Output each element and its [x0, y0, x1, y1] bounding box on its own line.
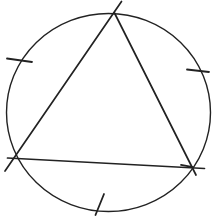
- geometry-figure: [0, 0, 218, 220]
- triangle-edge-bottom: [8, 158, 205, 169]
- circle-outline: [7, 14, 211, 212]
- tick-upper-right-arc: [187, 70, 209, 73]
- triangle-edge-right: [115, 13, 197, 175]
- tick-upper-left-arc: [7, 59, 32, 63]
- diagram-canvas: [0, 0, 218, 220]
- triangle-edge-left: [5, 2, 122, 172]
